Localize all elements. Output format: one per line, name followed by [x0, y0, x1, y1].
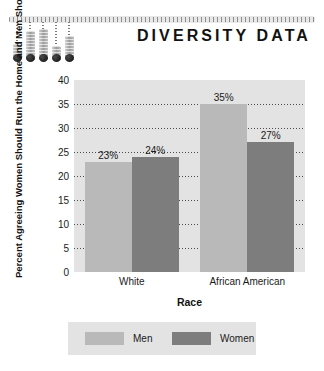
y-axis-tick-label: 30 [58, 123, 69, 134]
gridline [74, 104, 305, 105]
bar-value-label: 24% [145, 145, 165, 156]
thermometer-bar [26, 22, 35, 60]
y-axis-tick-label: 40 [58, 75, 69, 86]
thermometer-stem [42, 22, 44, 29]
thermometer-stem [55, 22, 57, 46]
bar-men-white: 23% [85, 162, 132, 272]
legend-item-women: Women [172, 332, 254, 345]
gridline [74, 128, 305, 129]
legend-swatch-women [172, 332, 211, 345]
bar-women-white: 24% [132, 157, 179, 272]
y-axis-tick-label: 0 [63, 267, 69, 278]
y-axis-tick-label: 35 [58, 99, 69, 110]
y-axis-title: Percent Agreeing Women Should Run the Ho… [4, 78, 34, 278]
bar-men-african-american: 35% [200, 104, 247, 272]
thermometer-bulb-icon [65, 54, 74, 62]
page-title: DIVERSITY DATA [137, 27, 311, 45]
plot-area: 0510152025303540 23%24%35%27% WhiteAfric… [74, 80, 305, 272]
legend-item-men: Men [85, 332, 152, 345]
thermometer-bar [52, 22, 61, 60]
thermometer-bar [39, 22, 48, 60]
chart-header: DIVERSITY DATA [0, 0, 324, 66]
y-axis-tick-label: 10 [58, 219, 69, 230]
y-axis-tick-label: 25 [58, 147, 69, 158]
y-axis-tick-label: 5 [63, 243, 69, 254]
legend-label-men: Men [133, 333, 152, 344]
chart-legend: Men Women [68, 322, 256, 355]
thermometer-stem [29, 22, 31, 31]
thermometer-bulb-icon [26, 54, 35, 62]
bar-women-african-american: 27% [247, 142, 294, 272]
legend-swatch-men [85, 332, 124, 345]
x-axis-title: Race [74, 296, 305, 308]
y-axis-tick-label: 20 [58, 171, 69, 182]
y-axis-tick-label: 15 [58, 195, 69, 206]
bar-value-label: 27% [261, 130, 281, 141]
bar-value-label: 35% [214, 92, 234, 103]
legend-label-women: Women [220, 333, 254, 344]
thermometer-bulb-icon [39, 54, 48, 62]
y-axis-title-text: Percent Agreeing Women Should Run the Ho… [13, 78, 26, 278]
thermometer-stem [68, 22, 70, 36]
x-axis-tick-label: African American [209, 276, 285, 287]
x-axis-tick-label: White [119, 276, 145, 287]
thermometer-bulb-icon [52, 54, 61, 62]
thermometer-bar [65, 22, 74, 60]
bar-value-label: 23% [98, 150, 118, 161]
